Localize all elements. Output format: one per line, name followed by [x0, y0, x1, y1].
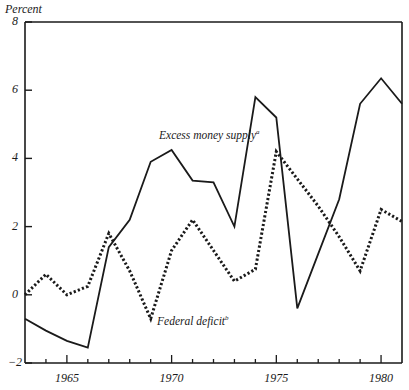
plot-frame: [25, 22, 402, 363]
y-tick-label: 6: [8, 82, 18, 97]
y-tick-label: 8: [8, 14, 18, 29]
x-tick-label: 1975: [264, 371, 288, 386]
excess-money-supply-label: Excess money supplya: [159, 128, 260, 141]
line-chart: [0, 0, 409, 390]
x-tick-label: 1970: [160, 371, 184, 386]
excess-money-supply-line: [25, 78, 402, 347]
y-tick-label: 2: [8, 219, 18, 234]
y-tick-label: −2: [8, 355, 18, 370]
y-tick-label: 0: [8, 287, 18, 302]
federal-deficit-label: Federal deficitb: [157, 314, 229, 327]
axis-ticks: [25, 22, 381, 363]
federal-deficit-line: [25, 152, 402, 319]
y-tick-label: 4: [8, 150, 18, 165]
x-tick-label: 1965: [55, 371, 79, 386]
x-tick-label: 1980: [369, 371, 393, 386]
